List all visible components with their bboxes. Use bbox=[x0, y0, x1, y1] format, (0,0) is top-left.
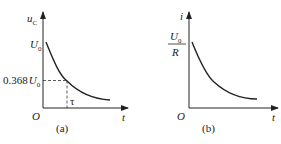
caption-a: (a) bbox=[56, 122, 69, 135]
initial-value-denominator: R bbox=[171, 46, 179, 58]
origin-label: O bbox=[32, 110, 40, 122]
y-axis-label: uC bbox=[27, 12, 38, 27]
caption-b: (b) bbox=[202, 122, 215, 135]
figure-canvas: uC U0 0.368U0 τ O t (a) i U0 R O t (b) bbox=[0, 0, 281, 144]
panel-b: i U0 R O t (b) bbox=[168, 10, 278, 135]
panel-a: uC U0 0.368U0 τ O t (a) bbox=[3, 12, 128, 135]
x-axis-label: t bbox=[122, 111, 126, 123]
x-axis-label: t bbox=[272, 111, 276, 123]
decay-curve bbox=[192, 42, 257, 99]
time-constant-label: τ bbox=[70, 95, 75, 107]
decay-curve bbox=[46, 42, 110, 100]
initial-value-label: U0 bbox=[30, 38, 42, 53]
initial-value-numerator: U0 bbox=[170, 30, 182, 45]
origin-label: O bbox=[177, 110, 185, 122]
y-axis-label: i bbox=[180, 10, 183, 22]
marker-value-label: 0.368U0 bbox=[3, 74, 41, 89]
